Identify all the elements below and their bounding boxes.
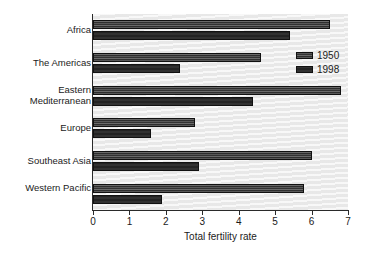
x-tick-mark [93,210,94,215]
bar-1950-southeast-asia [93,151,312,160]
x-tick-label: 3 [192,216,212,228]
bar-1998-the-americas [93,64,180,73]
bar-1950-africa [93,20,330,29]
legend-item-1998: 1998 [296,63,339,75]
category-label: Africa [3,24,91,35]
category-label: Eastern Mediterranean [3,84,91,106]
category-label: Southeast Asia [3,155,91,166]
x-tick-mark [129,210,130,215]
legend-swatch-1950-icon [296,52,313,59]
bar-1998-europe [93,129,151,138]
bar-1998-africa [93,31,290,40]
legend-item-1950: 1950 [296,49,339,61]
bar-1950-western-pacific [93,184,304,193]
bar-1950-eastern-mediterranean [93,86,341,95]
x-tick-label: 0 [83,216,103,228]
x-tick-mark [202,210,203,215]
bar-1998-eastern-mediterranean [93,97,253,106]
x-tick-mark [166,210,167,215]
x-tick-label: 1 [119,216,139,228]
x-tick-label: 4 [229,216,249,228]
category-label: Western Pacific [3,182,91,193]
bar-1998-southeast-asia [93,162,199,171]
bar-1950-europe [93,118,195,127]
x-tick-label: 7 [338,216,358,228]
bar-1998-western-pacific [93,195,162,204]
fertility-rate-bar-chart: 01234567 AfricaThe AmericasEastern Medit… [0,0,378,254]
x-tick-mark [312,210,313,215]
legend-label-1998: 1998 [317,64,339,75]
legend-label-1950: 1950 [317,50,339,61]
x-tick-label: 2 [156,216,176,228]
chart-legend: 1950 1998 [296,49,339,77]
category-label: Europe [3,122,91,133]
category-label: The Americas [3,57,91,68]
x-axis-title: Total fertility rate [93,231,348,243]
plot-area [93,14,348,210]
x-tick-mark [239,210,240,215]
bar-1950-the-americas [93,53,261,62]
y-axis-line [92,14,93,210]
legend-swatch-1998-icon [296,66,313,73]
x-tick-mark [275,210,276,215]
x-tick-label: 6 [302,216,322,228]
x-tick-mark [348,210,349,215]
x-tick-label: 5 [265,216,285,228]
